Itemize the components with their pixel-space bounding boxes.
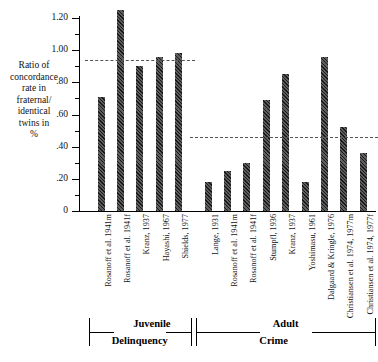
bar	[263, 100, 270, 211]
x-tick-label: Rosanoff et al. 1941m	[231, 214, 239, 287]
group-label-crime: Crime	[259, 335, 288, 347]
y-tick-minor	[75, 163, 80, 164]
y-tick-label: .40	[28, 142, 68, 152]
twin-concordance-bar-chart: Ratio of concordance rate in fraternal/ …	[0, 0, 378, 362]
bar	[302, 182, 309, 211]
y-tick-major	[72, 179, 80, 180]
bracket-line	[89, 332, 114, 333]
y-tick-major	[72, 147, 80, 148]
y-tick-major	[72, 115, 80, 116]
bar	[175, 53, 182, 211]
y-axis-label: Ratio of concordance rate in fraternal/ …	[0, 60, 68, 141]
bracket-end-cap	[191, 318, 192, 346]
bracket-line	[166, 332, 191, 333]
x-tick-label: Dalgaard & Kringle, 1976	[328, 214, 336, 300]
x-tick-label: Christiansen et al. 1974, 1977m	[347, 214, 355, 318]
y-tick-label: .60	[28, 110, 68, 120]
y-axis-label-line-6: twins in	[0, 118, 68, 130]
group-label-delinquency: Delinquency	[112, 335, 168, 347]
x-tick-label: Lange, 1931	[212, 214, 220, 255]
x-tick-label: Yoshimasu, 1961	[309, 214, 317, 271]
bracket-end-cap	[375, 318, 376, 346]
bracket-line	[312, 332, 376, 333]
x-tick-label: Kranz, 1937	[143, 214, 151, 254]
bar	[136, 66, 143, 211]
bar	[360, 153, 367, 211]
x-tick-label: Christiansen et al. 1974, 1977f	[367, 214, 375, 315]
y-tick-minor	[75, 195, 80, 196]
x-tick-label: Rosanoff et al. 1941f	[250, 214, 258, 283]
y-tick-label: 0	[28, 206, 68, 216]
x-tick-label: Shields, 1977	[182, 214, 190, 259]
bar	[282, 74, 289, 211]
y-tick-minor	[75, 34, 80, 35]
y-axis-label-line-7: %	[0, 129, 68, 141]
bar	[224, 171, 231, 211]
bar	[321, 57, 328, 211]
y-tick-label: .80	[28, 77, 68, 87]
y-axis-label-line-1: Ratio of	[0, 60, 68, 72]
y-tick-minor	[75, 131, 80, 132]
x-tick-label: Kranz, 1937	[289, 214, 297, 254]
y-tick-minor	[75, 98, 80, 99]
y-axis-label-line-4: fraternal/	[0, 95, 68, 107]
bar	[156, 57, 163, 211]
y-tick-major	[72, 82, 80, 83]
juvenile-mean-line	[85, 60, 195, 61]
bar	[205, 182, 212, 211]
x-tick-label: Rosanoff et al. 1941f	[124, 214, 132, 283]
x-tick-label: Rosanoff et al. 1941m	[105, 214, 113, 287]
bar	[243, 163, 250, 211]
bar	[117, 10, 124, 211]
x-tick-label: Hayashi, 1967	[163, 214, 171, 261]
x-axis-line	[79, 211, 376, 212]
bracket-line	[196, 332, 260, 333]
bar	[98, 97, 105, 211]
y-tick-minor	[75, 66, 80, 67]
y-tick-major	[72, 18, 80, 19]
group-label-juvenile: Juvenile	[133, 318, 170, 330]
group-label-adult: Adult	[273, 318, 299, 330]
y-tick-major	[72, 50, 80, 51]
y-tick-major	[72, 211, 80, 212]
y-tick-label: 1.00	[28, 45, 68, 55]
bar	[340, 127, 347, 211]
x-tick-label: Stumpfl, 1936	[270, 214, 278, 261]
y-tick-label: 1.20	[28, 13, 68, 23]
adult-mean-line	[190, 137, 378, 138]
y-tick-label: .20	[28, 174, 68, 184]
